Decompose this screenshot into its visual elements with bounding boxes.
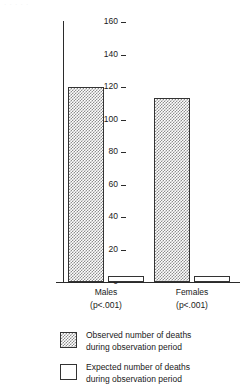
- y-axis-tick-mark: [121, 282, 126, 283]
- x-axis-label-females: Females(p<.001): [147, 286, 237, 311]
- x-axis-label-name: Females: [176, 287, 209, 297]
- expected-swatch: [60, 364, 77, 380]
- bar-observed-females: [154, 98, 190, 282]
- legend-item: Expected number of deathsduring observat…: [60, 363, 245, 390]
- bars-layer: [63, 22, 235, 282]
- x-axis-category-labels: Males(p<.001)Females(p<.001): [63, 286, 235, 326]
- legend-item: Observed number of deathsduring observat…: [60, 331, 245, 358]
- bar-expected-males: [108, 276, 144, 283]
- bar-observed-males: [68, 87, 104, 282]
- chart-legend: Observed number of deathsduring observat…: [60, 331, 245, 391]
- legend-label-line2: during observation period: [86, 374, 190, 386]
- legend-label-line1: Observed number of deaths: [86, 330, 191, 342]
- observed-swatch: [60, 332, 77, 348]
- x-axis-label-pvalue: (p<.001): [147, 299, 237, 312]
- bar-chart-figure: · · · · · Number of Deaths 0204060801001…: [0, 0, 245, 391]
- legend-item-label: Expected number of deathsduring observat…: [86, 362, 190, 385]
- y-axis-tick: 0: [63, 282, 126, 283]
- x-axis-label-males: Males(p<.001): [61, 286, 151, 311]
- x-axis-label-name: Males: [95, 287, 118, 297]
- legend-label-line1: Expected number of deaths: [86, 362, 190, 374]
- legend-label-line2: during observation period: [86, 342, 191, 354]
- scan-artifact-text: · · · · ·: [4, 1, 29, 8]
- x-axis-label-pvalue: (p<.001): [61, 299, 151, 312]
- legend-item-label: Observed number of deathsduring observat…: [86, 330, 191, 353]
- bar-expected-females: [194, 276, 230, 283]
